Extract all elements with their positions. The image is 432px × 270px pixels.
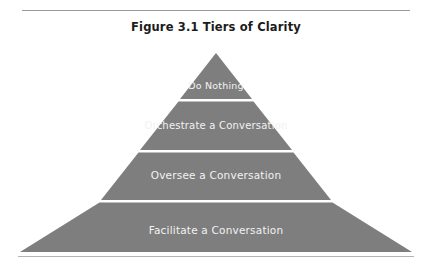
pyramid-tier-do-nothing <box>180 53 252 99</box>
pyramid-tier-oversee-a-conversation <box>101 153 331 201</box>
pyramid-tier-orchestrate-a-conversation <box>140 102 292 151</box>
pyramid-tier-facilitate-a-conversation <box>20 203 412 253</box>
pyramid-svg <box>0 0 432 270</box>
pyramid-diagram: Do Nothing Orchestrate a Conversation Ov… <box>0 0 432 270</box>
figure-bottom-divider <box>18 256 414 257</box>
figure-container: Figure 3.1 Tiers of Clarity Do Nothing O… <box>0 0 432 270</box>
